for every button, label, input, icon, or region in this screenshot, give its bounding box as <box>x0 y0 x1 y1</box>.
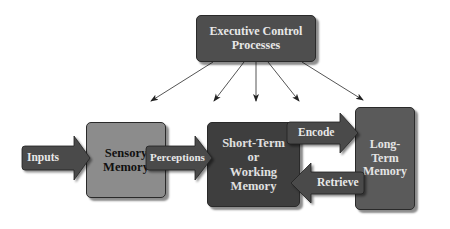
block-arrows <box>0 0 450 229</box>
encode-label: Encode <box>298 126 334 138</box>
inputs-label: Inputs <box>27 151 59 163</box>
perceptions-label: Perceptions <box>150 151 205 163</box>
retrieve-label: Retrieve <box>317 176 359 188</box>
